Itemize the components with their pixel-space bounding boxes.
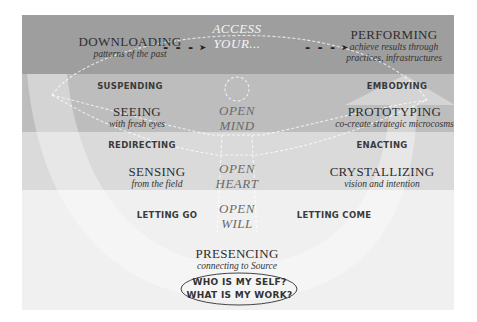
question-ellipse-icon xyxy=(22,15,454,310)
questions-block: WHO IS MY SELF? WHAT IS MY WORK? xyxy=(182,276,297,302)
theory-u-diagram: DOWNLOADING patterns of the past - - - ➤… xyxy=(22,15,454,310)
question-what-is-my-work: WHAT IS MY WORK? xyxy=(182,289,297,302)
question-who-is-my-self: WHO IS MY SELF? xyxy=(182,276,297,289)
